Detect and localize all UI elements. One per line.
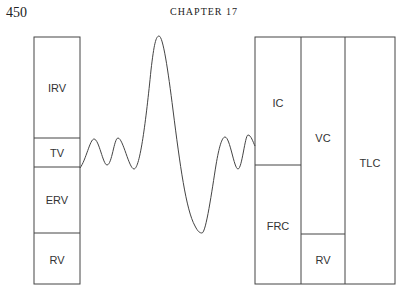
label-tv: TV	[50, 147, 65, 159]
label-ic: IC	[273, 97, 284, 109]
lung-volumes-diagram: IRV TV ERV RV IC FRC VC RV TLC	[0, 0, 408, 295]
left-volume-column	[34, 37, 80, 284]
label-rv-right: RV	[315, 254, 331, 266]
label-tlc: TLC	[360, 157, 381, 169]
label-erv: ERV	[46, 194, 69, 206]
label-rv-left: RV	[49, 254, 65, 266]
label-irv: IRV	[48, 82, 67, 94]
label-vc: VC	[315, 132, 330, 144]
spirogram-trace	[80, 36, 255, 233]
label-frc: FRC	[267, 220, 290, 232]
